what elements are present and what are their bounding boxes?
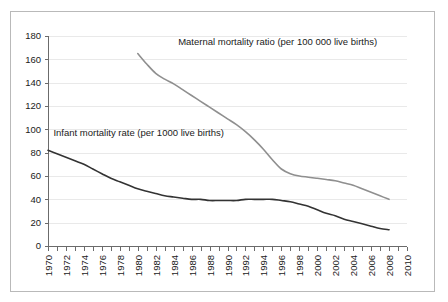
x-tick-label: 1970	[43, 255, 54, 276]
x-tick-label: 1992	[240, 255, 251, 276]
x-tick-label: 2006	[366, 255, 377, 276]
y-tick-label: 20	[30, 217, 41, 228]
y-tick-label: 60	[30, 170, 41, 181]
chart-figure: 020406080100120140160180 197019721974197…	[0, 0, 448, 302]
maternal-series-label: Maternal mortality ratio (per 100 000 li…	[178, 36, 377, 47]
x-tick-label: 1982	[151, 255, 162, 276]
y-axis: 020406080100120140160180	[25, 30, 48, 251]
x-axis: 1970197219741976197819801982198419861988…	[43, 247, 413, 277]
x-tick-label: 1994	[258, 255, 269, 276]
y-tick-label: 0	[36, 240, 41, 251]
x-tick-label: 1988	[205, 255, 216, 276]
y-tick-label: 180	[25, 30, 41, 41]
infant-series-label: Infant mortality rate (per 1000 live bir…	[53, 127, 224, 138]
annotations-group: Maternal mortality ratio (per 100 000 li…	[53, 36, 377, 138]
y-tick-label: 160	[25, 54, 41, 65]
y-tick-label: 40	[30, 194, 41, 205]
x-tick-label: 1976	[97, 255, 108, 276]
series-line-infant-mortality-rate	[48, 150, 389, 229]
x-tick-label: 1990	[223, 255, 234, 276]
x-tick-label: 2008	[384, 255, 395, 276]
x-tick-label: 1974	[79, 255, 90, 276]
y-tick-label: 120	[25, 100, 41, 111]
x-tick-label: 1996	[276, 255, 287, 276]
y-tick-label: 140	[25, 77, 41, 88]
x-tick-label: 1986	[187, 255, 198, 276]
x-tick-label: 2002	[330, 255, 341, 276]
x-tick-label: 1998	[294, 255, 305, 276]
y-tick-label: 80	[30, 147, 41, 158]
chart-frame-border: 020406080100120140160180 197019721974197…	[10, 11, 435, 292]
x-tick-label: 2010	[402, 255, 413, 276]
line-chart-plot: 020406080100120140160180 197019721974197…	[11, 12, 434, 291]
y-tick-label: 100	[25, 124, 41, 135]
x-tick-label: 2004	[348, 255, 359, 276]
x-tick-label: 1980	[133, 255, 144, 276]
x-tick-label: 2000	[312, 255, 323, 276]
x-tick-label: 1972	[61, 255, 72, 276]
x-tick-label: 1984	[169, 255, 180, 276]
data-series-group	[48, 54, 389, 230]
x-tick-label: 1978	[115, 255, 126, 276]
